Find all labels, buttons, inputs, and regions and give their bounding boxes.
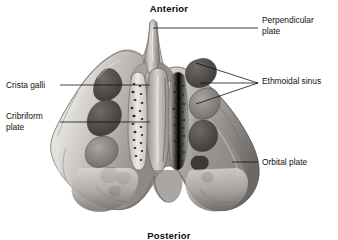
cribriform-plate-right (169, 72, 188, 170)
ethmoidal-air-cell-right-lower (189, 120, 218, 151)
label-cribriform-plate: Cribriform plate (6, 111, 43, 132)
label-ethmoidal-sinus: Ethmoidal sinus (262, 76, 321, 87)
label-perpendicular-plate: Perpendicular plate (262, 15, 314, 36)
cribriform-plate-left (128, 72, 147, 170)
orientation-label-posterior: Posterior (0, 230, 338, 240)
label-crista-galli: Crista galli (6, 80, 45, 91)
ethmoidal-air-cell-right-small-a (191, 156, 209, 171)
label-orbital-plate: Orbital plate (262, 157, 307, 168)
ethmoid-bone-body (51, 20, 259, 212)
orientation-label-anterior: Anterior (0, 3, 338, 14)
ethmoid-bone-illustration (0, 0, 338, 240)
posterior-notch (152, 170, 183, 203)
